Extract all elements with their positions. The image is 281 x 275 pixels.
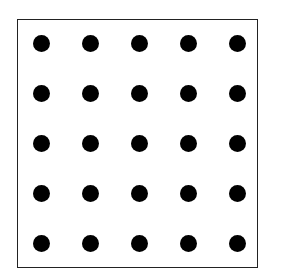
dot-r2-c3 [131, 85, 148, 102]
dot-r5-c1 [33, 235, 50, 252]
dot-r5-c3 [131, 235, 148, 252]
dot-r1-c1 [33, 35, 50, 52]
dot-r4-c3 [131, 185, 148, 202]
dot-r3-c1 [33, 135, 50, 152]
dot-r2-c4 [180, 85, 197, 102]
dot-r5-c2 [82, 235, 99, 252]
dot-r4-c2 [82, 185, 99, 202]
dot-r2-c1 [33, 85, 50, 102]
dot-r3-c4 [180, 135, 197, 152]
dot-r2-c5 [229, 85, 246, 102]
dot-r3-c3 [131, 135, 148, 152]
dot-r1-c2 [82, 35, 99, 52]
dot-r1-c5 [229, 35, 246, 52]
dot-r4-c4 [180, 185, 197, 202]
dot-r5-c4 [180, 235, 197, 252]
dot-r1-c4 [180, 35, 197, 52]
dot-r4-c5 [229, 185, 246, 202]
dot-r4-c1 [33, 185, 50, 202]
dot-r1-c3 [131, 35, 148, 52]
dot-r2-c2 [82, 85, 99, 102]
dot-r3-c2 [82, 135, 99, 152]
dot-r3-c5 [229, 135, 246, 152]
dot-r5-c5 [229, 235, 246, 252]
